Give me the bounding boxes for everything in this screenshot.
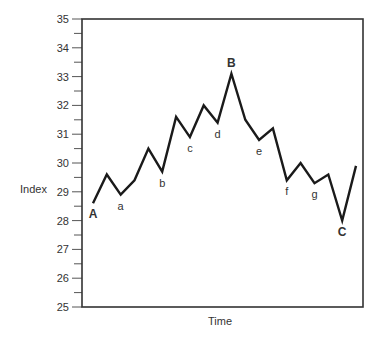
point-label-f: f bbox=[285, 185, 289, 197]
point-label-b: b bbox=[159, 177, 165, 189]
y-tick-label: 26 bbox=[57, 272, 69, 284]
y-tick-label: 33 bbox=[57, 71, 69, 83]
y-tick-label: 34 bbox=[57, 42, 69, 54]
point-label-C: C bbox=[338, 225, 347, 239]
point-label-c: c bbox=[187, 142, 193, 154]
y-tick-label: 29 bbox=[57, 186, 69, 198]
plot-frame bbox=[82, 19, 363, 307]
y-axis-ticks: 2526272829303132333435 bbox=[57, 13, 82, 313]
y-tick-label: 25 bbox=[57, 301, 69, 313]
y-tick-label: 31 bbox=[57, 128, 69, 140]
point-label-A: A bbox=[89, 207, 98, 221]
x-axis-title: Time bbox=[208, 315, 232, 327]
y-tick-label: 27 bbox=[57, 243, 69, 255]
point-label-a: a bbox=[118, 200, 125, 212]
point-label-e: e bbox=[256, 145, 262, 157]
point-label-B: B bbox=[227, 56, 236, 70]
y-tick-label: 35 bbox=[57, 13, 69, 25]
line-chart: 2526272829303132333435 AabcdBefgC Index … bbox=[0, 0, 378, 338]
y-axis-title: Index bbox=[20, 183, 47, 195]
y-tick-label: 32 bbox=[57, 99, 69, 111]
y-tick-label: 28 bbox=[57, 215, 69, 227]
point-label-d: d bbox=[215, 128, 221, 140]
wave-point-labels: AabcdBefgC bbox=[89, 56, 347, 239]
y-tick-label: 30 bbox=[57, 157, 69, 169]
point-label-g: g bbox=[311, 188, 317, 200]
